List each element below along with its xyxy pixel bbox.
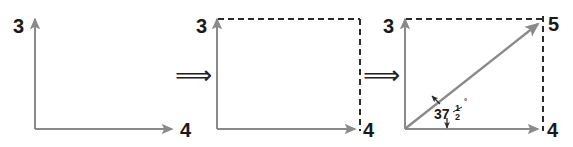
figure-background	[0, 0, 573, 147]
angle-whole-number: 37	[434, 106, 450, 122]
vector-addition-figure: 3 4 ⟹ 3 4 ⟹ 37 1	[0, 0, 573, 147]
x-axis-label-panel1: 4	[180, 119, 192, 141]
angle-fraction-denominator: 2	[455, 112, 460, 122]
x-axis-label-panel2: 4	[363, 119, 375, 141]
implies-arrow-1: ⟹	[175, 60, 212, 90]
x-axis-label-panel3: 4	[547, 119, 559, 141]
y-axis-label-panel3: 3	[383, 15, 394, 37]
angle-degree-symbol: °	[464, 97, 467, 106]
implies-arrow-2: ⟹	[363, 60, 400, 90]
figure-canvas: 3 4 ⟹ 3 4 ⟹ 37 1	[0, 0, 573, 147]
resultant-magnitude-label: 5	[548, 13, 559, 35]
y-axis-label-panel1: 3	[13, 15, 24, 37]
y-axis-label-panel2: 3	[196, 15, 207, 37]
